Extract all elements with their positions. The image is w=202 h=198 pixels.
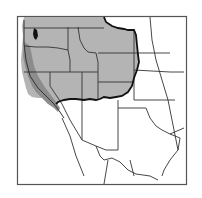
range-map: [0, 0, 202, 198]
